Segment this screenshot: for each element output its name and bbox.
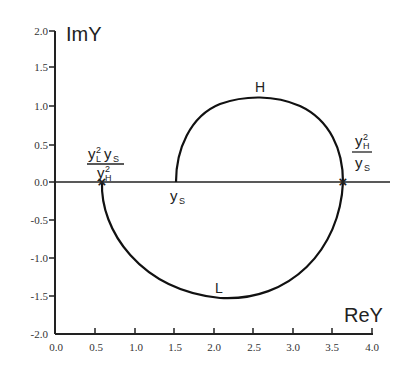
x-tick-label: 3.5 (325, 341, 339, 353)
right-marker-fraction: y 2 H y S (352, 132, 372, 173)
svg-text:y: y (355, 132, 363, 149)
h-arc-label: H (255, 79, 265, 95)
x-tick-label: 2.0 (207, 341, 221, 353)
svg-text:y: y (104, 145, 112, 162)
ys-label: y S (170, 187, 185, 206)
h-arc (176, 97, 343, 182)
x-tick-label: 2.5 (247, 341, 261, 353)
y-tick-label: 1.5 (34, 61, 48, 73)
x-tick-label: 3.0 (286, 341, 300, 353)
x-axis-title: ReY (344, 304, 383, 326)
svg-text:H: H (105, 173, 112, 183)
y-tick-label: 0.0 (34, 176, 48, 188)
left-marker-fraction: y 2 L y S y 2 H (87, 145, 124, 183)
x-tick-label: 0.0 (49, 341, 63, 353)
svg-text:y: y (355, 154, 363, 171)
y-tick-label: -2.0 (31, 328, 49, 340)
svg-text:y: y (170, 187, 178, 204)
x-tick-label: 0.5 (89, 341, 103, 353)
right-cross-marker-icon: × (339, 173, 348, 190)
x-tick-label: 1.5 (168, 341, 182, 353)
y-tick-label: 1.0 (34, 100, 48, 112)
impedance-diagram: 2.0 1.5 1.0 0.5 0.0 -0.5 -1.0 -1.5 -2.0 … (0, 0, 411, 377)
y-tick-labels: 2.0 1.5 1.0 0.5 0.0 -0.5 -1.0 -1.5 -2.0 (31, 25, 49, 340)
y-tick-label: -1.0 (31, 252, 49, 264)
svg-text:L: L (96, 154, 101, 164)
l-arc-label: L (215, 280, 223, 296)
svg-text:S: S (179, 196, 185, 206)
svg-text:y: y (97, 164, 105, 181)
x-tick-label: 4.0 (365, 341, 379, 353)
svg-text:H: H (363, 141, 370, 151)
svg-text:S: S (113, 154, 119, 164)
y-tick-label: -0.5 (31, 214, 49, 226)
y-axis-title: ImY (66, 23, 102, 45)
y-tick-label: 2.0 (34, 25, 48, 37)
x-tick-labels: 0.0 0.5 1.0 1.5 2.0 2.5 3.0 3.5 4.0 (49, 341, 379, 353)
x-tick-label: 1.0 (129, 341, 143, 353)
y-tick-label: 0.5 (34, 139, 48, 151)
svg-text:y: y (88, 145, 96, 162)
y-tick-label: -1.5 (31, 290, 49, 302)
svg-text:S: S (364, 163, 370, 173)
